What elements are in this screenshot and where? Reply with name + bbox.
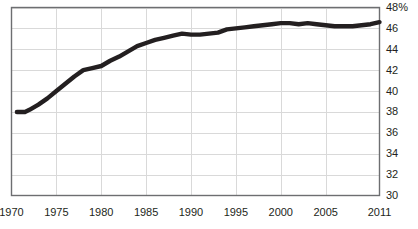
x-tick-label-2011: 2011	[360, 207, 400, 218]
y-tick-label-40: 40	[386, 86, 398, 97]
y-tick-label-46: 46	[386, 23, 398, 34]
data-series-line	[17, 22, 380, 112]
x-tick-label-1995: 1995	[216, 207, 256, 218]
y-tick-label-42: 42	[386, 65, 398, 76]
y-tick-label-36: 36	[386, 127, 398, 138]
x-tick-label-1975: 1975	[36, 207, 76, 218]
y-tick-label-48: 48%	[386, 2, 408, 13]
line-chart: 30323436384042444648% 197019751980198519…	[0, 0, 418, 229]
y-tick-label-30: 30	[386, 190, 398, 201]
x-tick-label-1985: 1985	[126, 207, 166, 218]
x-tick-label-2005: 2005	[306, 207, 346, 218]
y-tick-label-38: 38	[386, 106, 398, 117]
x-tick-label-2000: 2000	[261, 207, 301, 218]
x-tick-label-1990: 1990	[171, 207, 211, 218]
plot-area	[0, 0, 418, 229]
x-tick-label-1980: 1980	[81, 207, 121, 218]
y-tick-label-34: 34	[386, 148, 398, 159]
x-tick-label-1970: 1970	[0, 207, 32, 218]
y-tick-label-32: 32	[386, 169, 398, 180]
y-tick-label-44: 44	[386, 44, 398, 55]
